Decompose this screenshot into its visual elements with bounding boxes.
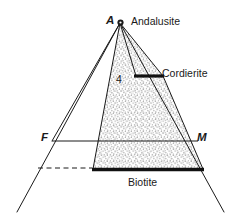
- apex-symbol-label: A: [106, 15, 114, 27]
- f-corner-label: F: [41, 132, 48, 144]
- stippled-phase-field: [0, 0, 241, 222]
- field-number-label: 4: [116, 74, 122, 85]
- cordierite-label: Cordierite: [162, 68, 208, 79]
- andalusite-label: Andalusite: [131, 16, 180, 27]
- andalusite-point-highlight: [119, 21, 121, 23]
- phase-diagram-canvas: [0, 0, 241, 222]
- biotite-label: Biotite: [128, 177, 157, 188]
- m-corner-label: M: [197, 132, 207, 144]
- afm-phase-diagram: A Andalusite Cordierite 4 F M Biotite: [0, 0, 241, 222]
